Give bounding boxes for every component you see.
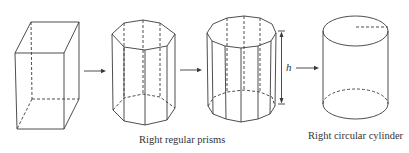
arrow-icon xyxy=(180,68,202,72)
height-dimension xyxy=(278,31,285,104)
circular-cylinder xyxy=(323,16,388,119)
arrow-icon xyxy=(84,69,106,73)
arrow-icon xyxy=(296,66,319,70)
rectangular-prism xyxy=(15,22,79,129)
caption-cylinder: Right circular cylinder xyxy=(308,130,403,141)
height-label: h xyxy=(286,61,292,73)
caption-prisms: Right regular prisms xyxy=(139,134,225,145)
octagonal-prism xyxy=(112,20,175,125)
decagonal-prism xyxy=(207,16,276,122)
